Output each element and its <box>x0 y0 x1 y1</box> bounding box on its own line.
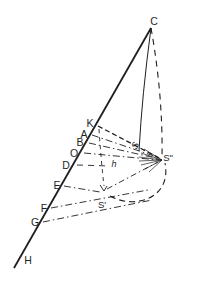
point-label-C: C <box>150 15 158 27</box>
diagram-lines-group <box>14 28 166 268</box>
point-label-H: H <box>24 254 32 266</box>
e-to-s1-dashdot <box>64 186 100 192</box>
diagram-canvas: CKABODEFGHSS"S'h <box>0 0 213 282</box>
main-axis-line <box>14 28 151 268</box>
point-label-O: O <box>70 147 78 159</box>
point-label-G: G <box>31 216 39 228</box>
diagram-labels-group: CKABODEFGHSS"S'h <box>24 15 173 266</box>
geometry-diagram: CKABODEFGHSS"S'h <box>0 0 213 282</box>
d-dashed-segment <box>77 165 110 166</box>
k-to-s1-dashed-drop <box>99 129 104 186</box>
point-label-D: D <box>62 159 70 171</box>
point-label-F: F <box>41 202 47 214</box>
point-label-S1: S' <box>98 199 106 210</box>
point-label-E: E <box>53 179 60 191</box>
s1-arrowhead <box>100 185 107 191</box>
c-to-s2-dashed-line <box>151 28 162 157</box>
point-label-K: K <box>86 117 93 129</box>
b-to-s2-dashdot <box>89 143 160 159</box>
point-label-h: h <box>111 159 116 169</box>
point-label-S2: S" <box>163 152 173 163</box>
